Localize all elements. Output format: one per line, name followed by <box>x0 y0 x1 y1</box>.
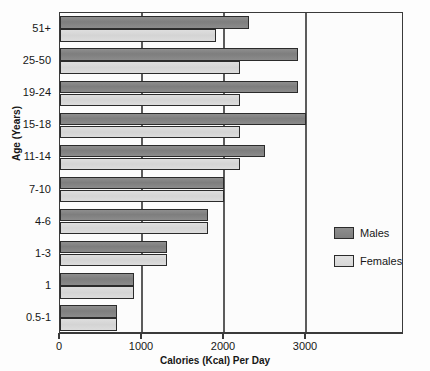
x-tickmark-3000 <box>304 333 305 339</box>
bar-males-1 <box>60 273 134 285</box>
plot-area <box>59 12 403 333</box>
bar-females-51+ <box>60 29 216 41</box>
y-tick-label-1-3: 1-3 <box>0 247 51 259</box>
bar-males-4-6 <box>60 209 208 221</box>
y-axis-tick-labels: 0.5-111-34-67-1011-1415-1819-2425-5051+ <box>0 12 55 333</box>
chart-legend: Males Females <box>334 222 426 278</box>
y-tick-label-4-6: 4-6 <box>0 215 51 227</box>
y-tick-label-15-18: 15-18 <box>0 118 51 130</box>
x-axis-line <box>59 333 403 334</box>
bar-females-4-6 <box>60 222 208 234</box>
y-tick-label-19-24: 19-24 <box>0 86 51 98</box>
x-axis-title: Calories (Kcal) Per Day <box>0 355 430 366</box>
bar-males-1-3 <box>60 241 167 253</box>
legend-label-males: Males <box>360 227 389 239</box>
bar-females-7-10 <box>60 190 224 202</box>
y-tick-label-7-10: 7-10 <box>0 183 51 195</box>
y-tick-label-25-50: 25-50 <box>0 54 51 66</box>
bar-males-11-14 <box>60 145 265 157</box>
legend-item-females: Females <box>334 250 426 272</box>
x-tickmark-0 <box>58 333 59 339</box>
female-swatch-icon <box>334 255 354 267</box>
y-tick-label-1: 1 <box>0 279 51 291</box>
legend-label-females: Females <box>360 255 402 267</box>
bar-males-25-50 <box>60 48 298 60</box>
y-tick-label-0.5-1: 0.5-1 <box>0 311 51 323</box>
bar-females-25-50 <box>60 61 240 73</box>
x-tick-label-1000: 1000 <box>129 340 153 352</box>
x-tick-label-3000: 3000 <box>293 340 317 352</box>
bar-males-7-10 <box>60 177 224 189</box>
bar-females-0.5-1 <box>60 318 117 330</box>
x-tickmark-2000 <box>222 333 223 339</box>
y-tick-label-11-14: 11-14 <box>0 150 51 162</box>
bar-females-1 <box>60 286 134 298</box>
bar-males-19-24 <box>60 81 298 93</box>
bar-females-11-14 <box>60 158 240 170</box>
bar-males-0.5-1 <box>60 305 117 317</box>
male-swatch-icon <box>334 227 354 239</box>
chart-figure: Age (Years) 0.5-111-34-67-1011-1415-1819… <box>0 0 430 371</box>
bar-females-1-3 <box>60 254 167 266</box>
bar-females-19-24 <box>60 94 240 106</box>
x-tickmark-1000 <box>140 333 141 339</box>
legend-item-males: Males <box>334 222 426 244</box>
bar-males-51+ <box>60 16 249 28</box>
y-tick-label-51+: 51+ <box>0 22 51 34</box>
x-tick-label-0: 0 <box>56 340 62 352</box>
bar-males-15-18 <box>60 113 306 125</box>
x-tick-label-2000: 2000 <box>211 340 235 352</box>
bar-series-group <box>60 13 402 332</box>
bar-females-15-18 <box>60 126 240 138</box>
